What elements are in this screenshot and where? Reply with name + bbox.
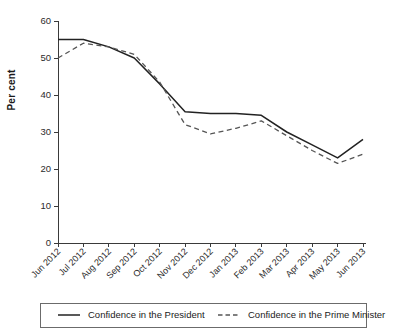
chart-legend: Confidence in the PresidentConfidence in… — [40, 303, 385, 327]
line-chart: Per cent 0102030405060 Jun 2012Jul 2012A… — [0, 0, 406, 334]
y-axis-tick-group: 0102030405060 — [40, 15, 58, 248]
series-line-prime-minister — [58, 43, 363, 163]
y-axis-tick-label: 60 — [40, 15, 51, 26]
y-axis-tick-label: 20 — [40, 163, 51, 174]
y-axis-title: Per cent — [6, 93, 17, 111]
chart-canvas: 0102030405060 Jun 2012Jul 2012Aug 2012Se… — [0, 0, 406, 334]
legend-label: Confidence in the Prime Minister — [248, 309, 385, 320]
y-axis-tick-label: 40 — [40, 89, 51, 100]
y-axis-tick-label: 30 — [40, 126, 51, 137]
x-axis-tick-group: Jun 2012Jul 2012Aug 2012Sep 2012Oct 2012… — [29, 243, 367, 281]
y-axis-tick-label: 0 — [46, 237, 51, 248]
y-axis-tick-label: 10 — [40, 200, 51, 211]
y-axis-tick-label: 50 — [40, 52, 51, 63]
legend-label: Confidence in the President — [88, 309, 205, 320]
x-axis-tick-label: Jun 2012 — [29, 246, 62, 279]
series-line-president — [58, 40, 363, 158]
